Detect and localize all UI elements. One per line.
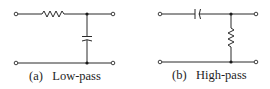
caption-tag: (b): [172, 68, 187, 82]
caption-text: Low-pass: [52, 69, 101, 83]
input-terminal-top: [158, 12, 162, 16]
output-terminal-bottom: [254, 60, 258, 64]
caption-low-pass: (a) Low-pass: [29, 70, 101, 83]
junction-node-top: [85, 12, 88, 15]
junction-node-bottom: [229, 60, 232, 63]
shunt-resistor-icon: [228, 28, 234, 47]
junction-node-top: [229, 12, 232, 15]
input-terminal-bottom: [158, 60, 162, 64]
series-resistor-icon: [42, 11, 64, 17]
output-terminal-top: [111, 12, 115, 16]
caption-text: High-pass: [196, 68, 247, 82]
high-pass-circuit: [158, 9, 258, 64]
caption-high-pass: (b) High-pass: [172, 69, 247, 82]
input-terminal-bottom: [14, 61, 18, 65]
output-terminal-top: [254, 12, 258, 16]
caption-tag: (a): [29, 69, 43, 83]
output-terminal-bottom: [111, 61, 115, 65]
input-terminal-top: [14, 12, 18, 16]
low-pass-circuit: [14, 11, 115, 65]
junction-node-bottom: [85, 61, 88, 64]
